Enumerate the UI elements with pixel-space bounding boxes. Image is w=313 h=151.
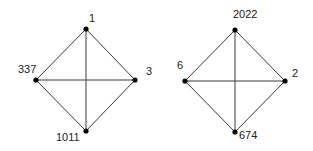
edge-left-top xyxy=(185,30,235,81)
node-label-left: 337 xyxy=(18,63,36,75)
diagram-canvas: 1 3 1011 337 2022 2 674 6 xyxy=(0,0,313,151)
node-label-bottom: 674 xyxy=(239,129,257,141)
node-top xyxy=(232,27,237,32)
node-bottom xyxy=(232,129,237,134)
edge-bottom-left xyxy=(185,81,235,132)
edge-bottom-left xyxy=(36,80,86,131)
node-label-bottom: 1011 xyxy=(56,131,80,143)
node-label-right: 3 xyxy=(146,65,152,77)
right-graph: 2022 2 674 6 xyxy=(177,8,298,141)
node-label-left: 6 xyxy=(177,59,183,71)
edge-top-right xyxy=(86,29,135,80)
left-graph: 1 3 1011 337 xyxy=(18,12,152,143)
node-label-top: 1 xyxy=(89,12,95,24)
edge-top-right xyxy=(235,30,285,81)
edge-right-bottom xyxy=(86,80,135,131)
node-label-right: 2 xyxy=(292,67,298,79)
edge-right-bottom xyxy=(235,81,285,132)
node-left xyxy=(33,77,38,82)
node-right xyxy=(282,78,287,83)
node-top xyxy=(83,26,88,31)
edge-left-top xyxy=(36,29,86,80)
node-right xyxy=(132,77,137,82)
node-bottom xyxy=(83,128,88,133)
node-left xyxy=(182,78,187,83)
node-label-top: 2022 xyxy=(233,8,257,20)
